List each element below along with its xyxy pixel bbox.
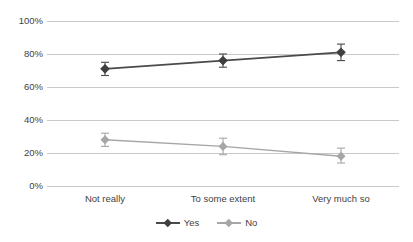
series-plot <box>47 21 399 186</box>
y-tick-label: 100% <box>19 16 43 26</box>
x-tick-label-not-really: Not really <box>85 193 125 204</box>
legend-entry-yes[interactable]: Yes <box>156 218 200 228</box>
legend-label-yes: Yes <box>184 218 200 228</box>
y-tick-label: 60% <box>24 82 43 92</box>
legend-label-no: No <box>245 218 257 228</box>
plot-area <box>47 21 399 186</box>
legend-entry-no[interactable]: No <box>217 218 257 228</box>
y-tick-label: 0% <box>29 181 43 191</box>
legend-marker-no-icon <box>217 218 241 228</box>
y-tick-label: 80% <box>24 49 43 59</box>
series-no <box>100 133 345 163</box>
chart-legend: Yes No <box>0 218 413 228</box>
legend-marker-yes-icon <box>156 218 180 228</box>
axis-line-0 <box>47 186 399 187</box>
series-yes-markers <box>100 48 346 74</box>
x-tick-label-very-much-so: Very much so <box>312 193 370 204</box>
y-axis-labels: 100% 80% 60% 40% 20% 0% <box>0 0 43 242</box>
y-tick-label: 40% <box>24 115 43 125</box>
y-tick-label: 20% <box>24 148 43 158</box>
series-yes <box>100 44 346 75</box>
line-chart: 100% 80% 60% 40% 20% 0% <box>0 0 413 242</box>
x-tick-label-to-some-extent: To some extent <box>191 193 255 204</box>
